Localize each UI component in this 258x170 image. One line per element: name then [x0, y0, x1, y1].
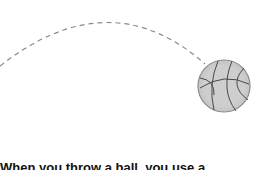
basketball-icon: [198, 60, 250, 112]
basketball-trajectory-illustration: [0, 0, 258, 150]
trajectory-arc: [0, 22, 205, 66]
caption-text: When you throw a ball, you use a: [0, 160, 258, 170]
